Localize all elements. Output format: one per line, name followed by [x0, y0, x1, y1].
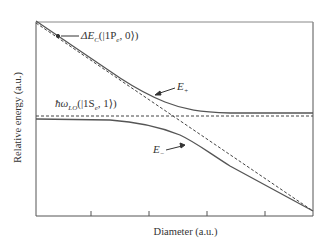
- e-plus-symbol: E: [177, 80, 184, 92]
- e-minus-curve: [36, 119, 313, 211]
- e-minus-symbol: E: [153, 143, 160, 155]
- e-plus-sub: +: [184, 87, 189, 95]
- delta-ec-symbol: ΔE: [81, 29, 94, 41]
- hw-symbol: ħω: [55, 97, 68, 109]
- delta-ec-line: [36, 23, 313, 211]
- hw-state-end: , 1⟩): [98, 97, 117, 109]
- x-axis-label: Diameter (a.u.): [0, 226, 331, 237]
- hw-state: (|1S: [77, 97, 94, 109]
- y-axis-label: Relative energy (a.u.): [12, 63, 23, 173]
- delta-ec-label: ΔEC(|1Pe, 0⟩): [81, 29, 138, 44]
- e-minus-sub: −: [160, 150, 165, 158]
- hw-lo-label: ħωLO(|1Se, 1⟩): [55, 97, 117, 112]
- hw-sub: LO: [68, 104, 77, 112]
- delta-ec-state: (|1P: [99, 29, 116, 41]
- e-plus-label: E+: [177, 80, 188, 95]
- e-minus-label: E−: [153, 143, 164, 158]
- annotation-arrows: [56, 34, 185, 150]
- delta-ec-state-end: , 0⟩): [119, 29, 138, 41]
- chart-canvas: [0, 0, 331, 245]
- x-ticks: [91, 211, 265, 216]
